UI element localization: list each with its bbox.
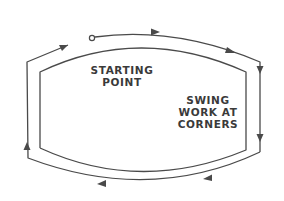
arrow-left-icon — [203, 175, 212, 182]
arrow-right-down-icon — [225, 47, 236, 53]
starting-point-label-line-1: STARTING — [82, 64, 162, 76]
arrow-up-icon — [24, 142, 31, 150]
arrow-down-icon — [257, 66, 264, 74]
arrow-down-icon — [257, 134, 264, 142]
swing-label-line-3: CORNERS — [170, 118, 246, 130]
swing-label-line-2: WORK AT — [170, 106, 246, 118]
starting-point-label-line-2: POINT — [82, 76, 162, 88]
swing-work-label: SWING WORK AT CORNERS — [170, 94, 246, 130]
swing-label-line-1: SWING — [170, 94, 246, 106]
starting-point-label: STARTING POINT — [82, 64, 162, 88]
arrow-right-icon — [151, 29, 160, 36]
start-point-marker-icon — [89, 35, 94, 40]
arrow-left-icon — [97, 180, 106, 187]
